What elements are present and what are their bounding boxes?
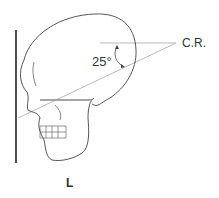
angle-label: 25° [92, 54, 112, 69]
arrowhead-icon [115, 45, 119, 49]
orbit-outline [33, 62, 36, 86]
teeth [40, 126, 66, 138]
angle-arc [115, 46, 124, 67]
cranium-outline [24, 14, 136, 106]
central-ray-label: C.R. [182, 36, 206, 50]
face-mandible-outline [20, 60, 94, 161]
side-marker: L [66, 176, 73, 190]
skull-positioning-diagram: C.R. 25° L [0, 0, 219, 198]
maxilla-outline [55, 105, 61, 120]
skull-lateral-drawing [0, 0, 219, 198]
